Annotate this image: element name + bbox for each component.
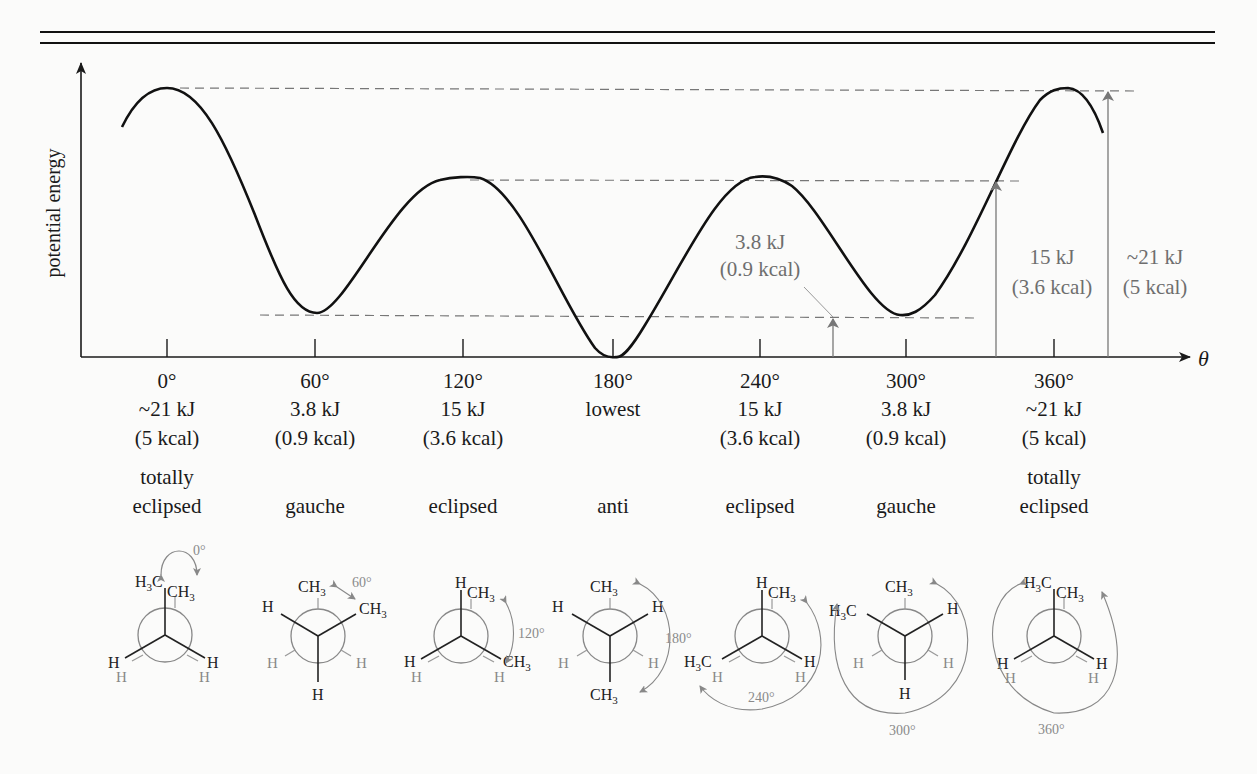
newman-180-anti: CH3 H H H H CH3 180° [552, 578, 692, 706]
svg-text:H: H [404, 653, 416, 670]
svg-text:H: H [899, 685, 911, 702]
svg-text:H: H [558, 655, 569, 671]
tick-label-180: 180° [593, 369, 633, 393]
svg-text:H: H [1005, 670, 1016, 686]
tick-label-300: 300° [886, 369, 926, 393]
energy-kcal-label-360: (5 kcal) [1022, 426, 1087, 450]
tick-label-360: 360° [1034, 369, 1074, 393]
conformation-name-0-line1: totally [140, 465, 194, 489]
svg-text:H: H [356, 655, 367, 671]
svg-text:CH3: CH3 [885, 578, 913, 598]
conformation-name-60: gauche [285, 494, 344, 518]
newman-240-eclipsed: H CH3 H3C H H H 240° [684, 574, 821, 710]
newman-300-gauche: CH3 H3C H H H H 300° [829, 578, 968, 738]
conformation-name-360-line2: eclipsed [1020, 494, 1089, 518]
conformation-name-120: eclipsed [429, 494, 498, 518]
newman-120-eclipsed: H CH3 H H CH3 H 120° [404, 574, 545, 685]
x-ticks [167, 339, 1054, 357]
y-axis-label: potential energy [42, 148, 65, 277]
rotation-label-360: 360° [1038, 722, 1065, 737]
conformation-name-300: gauche [876, 494, 935, 518]
annotation-0.9kcal: (0.9 kcal) [720, 257, 800, 281]
energy-kcal-label-60: (0.9 kcal) [275, 426, 355, 450]
tick-label-240: 240° [740, 369, 780, 393]
energy-kcal-label-0: (5 kcal) [135, 426, 200, 450]
rotation-label-240: 240° [748, 690, 775, 705]
svg-text:H: H [116, 669, 127, 685]
energy-kcal-label-120: (3.6 kcal) [423, 426, 503, 450]
svg-text:H: H [262, 598, 274, 615]
rotation-label-180: 180° [665, 631, 692, 646]
rotation-label-60: 60° [352, 575, 372, 590]
svg-text:H: H [756, 574, 768, 591]
rotation-label-300: 300° [889, 723, 916, 738]
svg-text:CH3: CH3 [1056, 584, 1084, 604]
svg-text:H: H [795, 669, 806, 685]
svg-text:H: H [199, 669, 210, 685]
svg-text:H: H [552, 598, 564, 615]
annotation-3.8kj: 3.8 kJ [735, 230, 785, 254]
svg-text:H: H [853, 655, 864, 671]
svg-text:H: H [1088, 670, 1099, 686]
energy-label-120: 15 kJ [441, 397, 486, 421]
ref-line-3.8kj [260, 315, 978, 318]
svg-text:H: H [411, 669, 422, 685]
conformation-labels: 0° ~21 kJ (5 kcal) totally eclipsed 60° … [133, 369, 1089, 518]
svg-text:H: H [804, 653, 816, 670]
svg-text:H: H [312, 686, 324, 703]
newman-0-totally-eclipsed: H3C CH3 H H H H 0° [108, 543, 219, 685]
annotation-21kj: ~21 kJ [1127, 245, 1183, 269]
x-axis-label: θ [1198, 346, 1209, 371]
energy-label-0: ~21 kJ [139, 397, 195, 421]
tick-label-0: 0° [158, 369, 177, 393]
svg-text:H: H [455, 574, 467, 591]
svg-text:CH3: CH3 [590, 578, 618, 598]
conformation-name-360-line1: totally [1027, 465, 1081, 489]
svg-text:CH3: CH3 [590, 686, 618, 706]
rotation-label-0: 0° [193, 543, 206, 558]
tick-label-120: 120° [443, 369, 483, 393]
annotation-3.6kcal: (3.6 kcal) [1012, 275, 1092, 299]
energy-label-300: 3.8 kJ [881, 397, 931, 421]
tick-label-60: 60° [300, 369, 329, 393]
energy-label-180: lowest [586, 397, 641, 421]
arrow-3.8kj-leader [804, 287, 833, 317]
energy-label-360: ~21 kJ [1026, 397, 1082, 421]
svg-text:H3C: H3C [684, 653, 712, 673]
svg-text:CH3: CH3 [167, 583, 195, 603]
conformation-name-0-line2: eclipsed [133, 494, 202, 518]
svg-text:H: H [494, 669, 505, 685]
energy-kcal-label-300: (0.9 kcal) [866, 426, 946, 450]
conformational-energy-figure: θ potential energy 3.8 kJ (0.9 kcal) 15 … [0, 0, 1257, 774]
rotation-label-120: 120° [518, 626, 545, 641]
energy-label-240: 15 kJ [738, 397, 783, 421]
energy-label-60: 3.8 kJ [290, 397, 340, 421]
header-rules [40, 32, 1215, 43]
svg-text:H: H [712, 669, 723, 685]
newman-projections: H3C CH3 H H H H 0° CH3 CH3 H H H H 60° [108, 543, 1117, 738]
svg-text:H: H [648, 655, 659, 671]
svg-text:CH3: CH3 [503, 653, 531, 673]
annotation-15kj: 15 kJ [1030, 245, 1075, 269]
ref-line-21kj [180, 88, 1140, 91]
energy-kcal-label-240: (3.6 kcal) [720, 426, 800, 450]
newman-60-gauche: CH3 CH3 H H H H 60° [262, 575, 387, 703]
svg-text:CH3: CH3 [359, 600, 387, 620]
svg-text:CH3: CH3 [298, 578, 326, 598]
newman-360-totally-eclipsed: H3C CH3 H H H H 360° [993, 574, 1118, 737]
svg-text:H3C: H3C [829, 602, 857, 622]
annotation-5kcal: (5 kcal) [1123, 275, 1188, 299]
svg-text:H: H [943, 655, 954, 671]
conformation-name-180: anti [597, 494, 629, 518]
svg-text:H3C: H3C [1024, 574, 1052, 594]
conformation-name-240: eclipsed [726, 494, 795, 518]
svg-text:H: H [267, 655, 278, 671]
svg-text:H3C: H3C [135, 573, 163, 593]
